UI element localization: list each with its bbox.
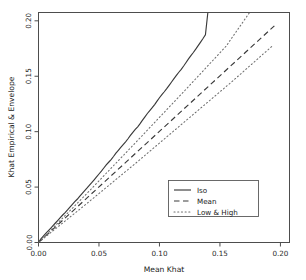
x-axis-ticks: 0.000.050.100.150.20 xyxy=(30,243,288,258)
x-tick-label: 0.15 xyxy=(212,249,228,258)
x-tick-label: 0.20 xyxy=(272,249,288,258)
legend-label-low-high: Low & High xyxy=(197,208,238,217)
x-axis-title: Mean Khat xyxy=(144,265,185,274)
chart-root: 0.000.050.100.150.20 0.000.050.100.150.2… xyxy=(0,0,306,280)
y-axis-ticks: 0.000.050.100.150.20 xyxy=(25,12,39,250)
legend-label-mean: Mean xyxy=(197,197,217,206)
khat-envelope-chart: 0.000.050.100.150.20 0.000.050.100.150.2… xyxy=(0,0,306,280)
legend-label-iso: Iso xyxy=(197,186,207,195)
y-tick-label: 0.05 xyxy=(25,179,34,195)
y-tick-label: 0.10 xyxy=(25,123,34,139)
y-tick-label: 0.20 xyxy=(25,12,34,28)
x-tick-label: 0.10 xyxy=(151,249,167,258)
y-tick-label: 0.15 xyxy=(25,68,34,84)
chart-legend: IsoMeanLow & High xyxy=(169,181,259,217)
y-tick-label: 0.00 xyxy=(25,234,34,250)
y-axis-title: Khat Empirical & Envelope xyxy=(7,76,16,177)
x-tick-label: 0.05 xyxy=(91,249,107,258)
